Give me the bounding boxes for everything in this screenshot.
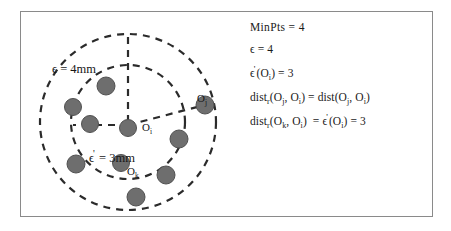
eq-sign-5: =: [313, 115, 320, 127]
inner-epsilon-value: = 3mm: [96, 151, 135, 165]
point-bottom: [127, 188, 145, 206]
prime-mark-2: ': [326, 112, 328, 122]
sub-i-3: i: [364, 97, 366, 106]
point-lower-right: [157, 166, 175, 184]
equations-panel: MinPts = 4 ϵ = 4 ϵ'(Oi) = 3 distr(Oj, Oi…: [229, 12, 434, 217]
o-letter-8: O: [333, 115, 341, 127]
dist-ok-value: 3: [360, 115, 366, 127]
point-left-inner: [82, 116, 99, 133]
equation-dist-oj-oi: distr(Oj, Oi) = dist(Oj, Oi): [250, 92, 434, 106]
o-letter-5: O: [355, 91, 363, 103]
point-center-oi: [120, 120, 137, 137]
equation-dist-ok-oi: distr(Ok, Oi) = ϵ'(Oi) = 3: [250, 113, 434, 130]
point-label-oj: Oj: [197, 93, 207, 107]
oj-subscript: j: [205, 98, 207, 107]
ok-subscript: k: [135, 171, 139, 180]
o-letter-7: O: [292, 115, 300, 127]
sub-i-4: i: [301, 122, 303, 131]
sub-j-2: j: [347, 97, 349, 106]
equation-epsilon-prime-oi: ϵ'(Oi) = 3: [250, 65, 434, 82]
eq-sign-4: =: [308, 91, 315, 103]
eq-sign-6: =: [350, 115, 357, 127]
point-label-ok: Ok: [127, 166, 139, 180]
epsilon-value: 4: [267, 43, 273, 55]
eq-sign-3: =: [278, 67, 285, 79]
o-letter-4: O: [339, 91, 347, 103]
dist-token-1: dist: [250, 91, 267, 103]
dist-subscript-1: r: [267, 97, 270, 106]
dist-token-2: dist: [318, 91, 335, 103]
o-letter-2: O: [274, 91, 282, 103]
ok-letter: O: [127, 165, 135, 177]
data-point-group: [65, 77, 215, 206]
point-upper-mid: [97, 77, 115, 95]
eq-sign-2: =: [258, 43, 265, 55]
inner-epsilon-prime: ': [93, 148, 95, 159]
epsilon-token-1: ϵ: [250, 43, 255, 55]
radius-to-oj-line: [128, 105, 205, 125]
equation-epsilon: ϵ = 4: [250, 44, 434, 56]
dist-subscript-2: r: [267, 122, 270, 131]
o-letter-3: O: [290, 91, 298, 103]
inner-epsilon-label: ϵ' = 3mm: [89, 149, 135, 165]
diagram-canvas: [21, 12, 229, 217]
equation-minpts: MinPts = 4: [250, 22, 434, 34]
epsilon-neighborhood-diagram: ϵ = 4mm ϵ' = 3mm Oi Oj Ok: [21, 12, 229, 217]
sub-i-5: i: [341, 122, 343, 131]
sub-k-1: k: [282, 122, 286, 131]
point-lower-left: [67, 155, 85, 173]
figure-frame: ϵ = 4mm ϵ' = 3mm Oi Oj Ok MinPts = 4 ϵ =…: [20, 11, 433, 217]
sub-j-1: j: [282, 97, 284, 106]
sub-i-2: i: [299, 97, 301, 106]
point-label-oi: Oi: [142, 122, 152, 136]
epsilon-prime-value: 3: [288, 67, 294, 79]
eq-sign-1: =: [289, 21, 296, 33]
oi-letter: O: [142, 121, 150, 133]
oj-letter: O: [197, 92, 205, 104]
oi-subscript: i: [150, 127, 152, 136]
outer-epsilon-label: ϵ = 4mm: [52, 63, 96, 76]
minpts-value: 4: [299, 21, 305, 33]
o-letter-1: O: [260, 67, 268, 79]
o-letter-6: O: [274, 115, 282, 127]
sub-i-1: i: [269, 73, 271, 82]
point-right-mid: [170, 130, 188, 148]
dist-token-3: dist: [250, 115, 267, 127]
prime-mark-1: ': [254, 64, 256, 74]
minpts-token: MinPts: [250, 21, 285, 33]
point-left-outer: [65, 99, 82, 116]
